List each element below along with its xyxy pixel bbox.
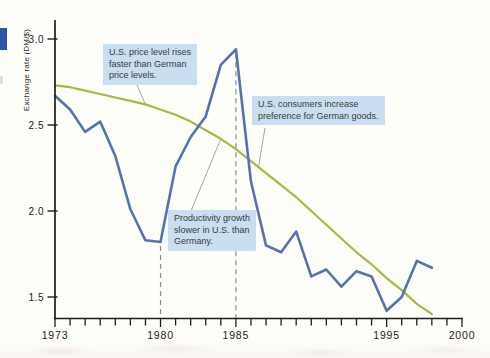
- x-tick-label: 1973: [42, 329, 69, 341]
- x-tick-label: 1980: [147, 329, 174, 341]
- annotation-consumer-preference: U.S. consumers increase preference for G…: [252, 96, 385, 125]
- textbook-figure-page: Exchange rate (DM/$) 3.02.52.01.51973198…: [0, 0, 490, 358]
- y-tick-label: 2.0: [29, 206, 44, 217]
- x-tick-label: 1995: [373, 329, 400, 341]
- x-tick-label: 1985: [223, 329, 250, 341]
- x-tick-label: 2000: [449, 329, 476, 341]
- actual-exchange-rate-DM-per-USD-line: [55, 49, 432, 311]
- annotation-leader-line: [259, 128, 266, 167]
- annotation-price-level: U.S. price level rises faster than Germa…: [103, 44, 197, 85]
- exchange-rate-chart: 3.02.52.01.519731980198519952000: [0, 0, 490, 358]
- annotation-leader-line: [191, 139, 221, 211]
- annotation-productivity-growth: Productivity growth slower in U.S. than …: [168, 210, 256, 251]
- annotation-leader-line: [137, 85, 145, 104]
- y-tick-label: 2.5: [29, 120, 44, 131]
- y-tick-label: 1.5: [29, 292, 44, 303]
- y-tick-label: 3.0: [29, 34, 44, 45]
